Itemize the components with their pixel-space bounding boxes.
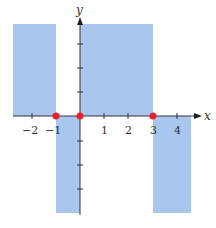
zero-point-0 xyxy=(77,113,84,120)
region-positive-center xyxy=(80,24,153,116)
region-positive-left xyxy=(13,24,56,116)
region-negative-right xyxy=(153,116,191,213)
x-tick-label: −2 xyxy=(22,124,38,137)
sign-chart-figure: x y −2 −1 1 2 3 4 xyxy=(0,0,216,228)
x-axis-label: x xyxy=(204,109,211,123)
x-tick-label: 3 xyxy=(150,124,157,137)
y-axis-label: y xyxy=(75,3,83,17)
x-tick-label: −1 xyxy=(45,124,61,137)
x-tick-label: 1 xyxy=(101,124,108,137)
x-tick-label: 4 xyxy=(174,124,181,137)
y-axis-arrow-icon xyxy=(77,17,83,25)
zero-point-neg1 xyxy=(53,113,60,120)
zero-point-3 xyxy=(150,113,157,120)
x-axis-arrow-icon xyxy=(194,113,202,119)
x-tick-label: 2 xyxy=(125,124,132,137)
